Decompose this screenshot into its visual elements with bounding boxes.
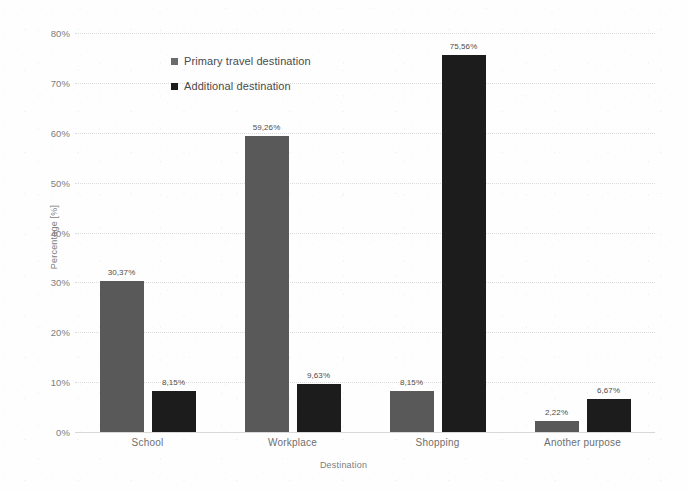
legend-label-primary: Primary travel destination <box>184 55 311 67</box>
bar <box>390 391 434 432</box>
y-axis-tick-label: 70% <box>28 77 70 88</box>
bar <box>245 136 289 432</box>
legend-swatch-icon-primary <box>171 58 178 65</box>
legend-swatch-icon-additional <box>171 83 178 90</box>
bar <box>587 399 631 432</box>
y-axis-tick-label: 80% <box>28 28 70 39</box>
y-axis-tick-label: 20% <box>28 327 70 338</box>
bar <box>297 384 341 432</box>
x-axis-tick-label: Shopping <box>365 437 510 448</box>
plot-area: 30,37%8,15%59,26%9,63%8,15%75,56%2,22%6,… <box>75 33 655 432</box>
y-axis-tick-label: 60% <box>28 127 70 138</box>
y-axis-tick-label: 30% <box>28 277 70 288</box>
bar <box>442 55 486 432</box>
x-axis-title: Destination <box>0 460 687 470</box>
x-axis-tick-label: Workplace <box>220 437 365 448</box>
bar-value-label: 8,15% <box>380 378 444 387</box>
bar-value-label: 59,26% <box>235 123 299 132</box>
x-axis-tick-label: Another purpose <box>510 437 655 448</box>
gridline <box>75 83 655 84</box>
bar-value-label: 2,22% <box>525 408 589 417</box>
y-axis-tick-label: 50% <box>28 177 70 188</box>
y-axis-tick-label: 0% <box>28 427 70 438</box>
bar <box>535 421 579 432</box>
bar-value-label: 30,37% <box>90 268 154 277</box>
gridline <box>75 282 655 283</box>
bar-value-label: 9,63% <box>287 371 351 380</box>
gridline <box>75 33 655 34</box>
gridline <box>75 133 655 134</box>
legend-entry-primary: Primary travel destination <box>171 55 311 67</box>
bar-value-label: 6,67% <box>577 386 641 395</box>
gridline <box>75 233 655 234</box>
x-axis-tick-label: School <box>75 437 220 448</box>
bar-value-label: 75,56% <box>432 42 496 51</box>
legend-entry-additional: Additional destination <box>171 80 311 92</box>
y-axis-tick-label: 40% <box>28 227 70 238</box>
legend: Primary travel destination Additional de… <box>171 55 311 105</box>
legend-label-additional: Additional destination <box>184 80 291 92</box>
bar-value-label: 8,15% <box>142 378 206 387</box>
bar <box>100 281 144 432</box>
gridline <box>75 332 655 333</box>
gridline <box>75 183 655 184</box>
bar-chart: Percentage [%] 0%10%20%30%40%50%60%70%80… <box>0 0 687 490</box>
gridline <box>75 432 655 433</box>
bar <box>152 391 196 432</box>
y-axis-tick-label: 10% <box>28 377 70 388</box>
